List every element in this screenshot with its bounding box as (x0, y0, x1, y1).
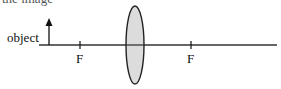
focal-label-left: F (76, 51, 83, 66)
object-arrow (46, 18, 53, 45)
object-label: object (7, 30, 39, 45)
focal-label-right: F (187, 51, 194, 66)
lens-diagram: object F F (0, 0, 281, 89)
